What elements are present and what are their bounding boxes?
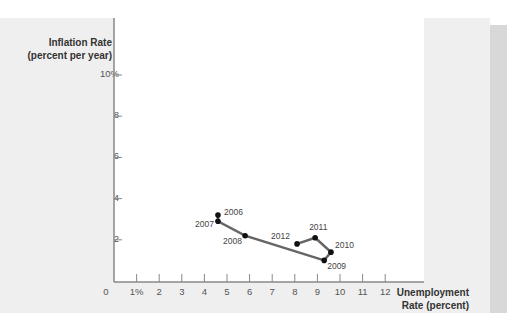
chart-svg: [0, 0, 507, 325]
data-point: [242, 233, 248, 239]
data-point: [294, 241, 300, 247]
data-point: [321, 258, 327, 264]
data-point: [312, 235, 318, 241]
data-point: [328, 249, 334, 255]
data-point: [215, 212, 221, 218]
data-point: [215, 218, 221, 224]
